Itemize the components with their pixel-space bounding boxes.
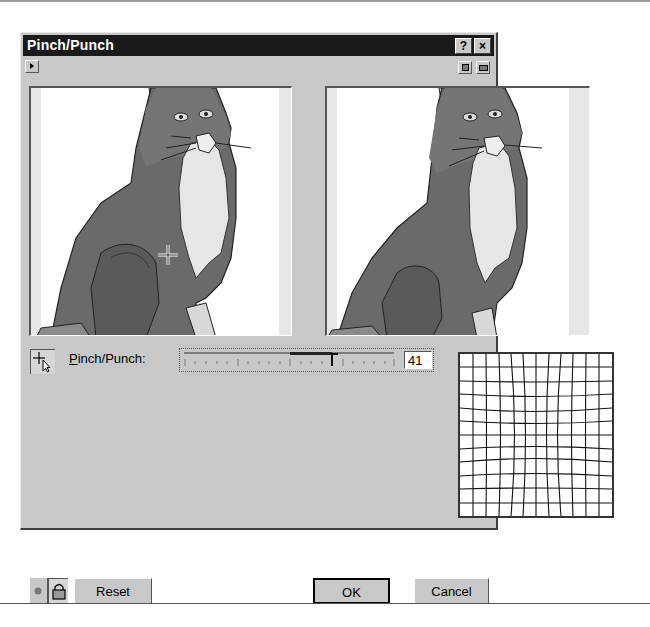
single-preview-button[interactable] — [458, 61, 472, 74]
distortion-grid-preview — [458, 352, 614, 518]
page-top-rule — [0, 0, 650, 2]
close-button[interactable]: × — [474, 38, 491, 54]
pinch-punch-slider[interactable] — [179, 348, 434, 372]
help-title-button[interactable]: ? — [455, 38, 472, 54]
preview-toggle-button[interactable] — [25, 60, 39, 73]
pinch-punch-value-input[interactable]: 41 — [404, 351, 432, 369]
crosshair-pointer-icon — [31, 350, 55, 374]
reset-button[interactable]: Reset — [74, 578, 152, 604]
pinch-grid — [460, 354, 612, 516]
original-preview[interactable] — [29, 86, 292, 336]
crosshair-tool-button[interactable] — [30, 349, 55, 374]
dual-preview-button[interactable] — [476, 61, 490, 74]
slider-thumb — [332, 354, 338, 366]
result-preview[interactable] — [325, 86, 590, 336]
ok-button[interactable]: OK — [313, 578, 390, 604]
slider-track — [182, 349, 407, 371]
preview-eye-button[interactable] — [30, 578, 48, 604]
cat-image — [31, 88, 292, 336]
lock-icon — [49, 579, 69, 603]
pinch-punch-label: Pinch/Punch: — [69, 351, 146, 366]
label-text: inch/Punch: — [78, 351, 146, 366]
pinch-punch-dialog: Pinch/Punch ? × — [20, 32, 498, 530]
eye-icon — [30, 578, 46, 602]
label-mnemonic: P — [69, 351, 78, 366]
dialog-title: Pinch/Punch — [27, 37, 114, 53]
cancel-button[interactable]: Cancel — [414, 578, 489, 604]
page-bottom-rule — [0, 603, 650, 627]
title-bar[interactable]: Pinch/Punch ? × — [23, 35, 494, 56]
lock-button[interactable] — [48, 578, 68, 604]
cat-image-distorted — [327, 88, 590, 336]
